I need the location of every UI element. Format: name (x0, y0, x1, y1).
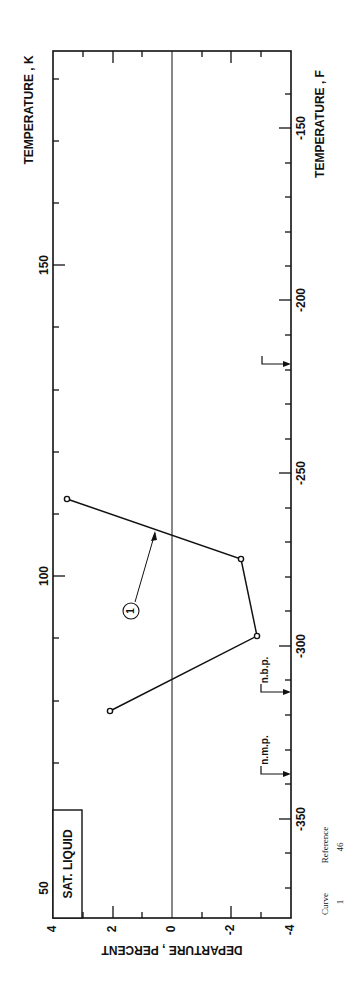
data-point (107, 708, 112, 713)
table-reference-header: Reference (320, 827, 330, 863)
state-label: SAT. LIQUID (61, 829, 75, 898)
k-tick-100: 100 (37, 566, 51, 586)
f-tick-150: -150 (294, 116, 308, 140)
departure-axis-title: DEPARTURE , PERCENT (101, 943, 243, 957)
f-tick-200: -200 (294, 288, 308, 312)
data-point (238, 556, 243, 561)
f-tick-350: -350 (294, 807, 308, 831)
curve-1-points (64, 496, 259, 713)
dep-tick-0: 0 (164, 925, 178, 932)
f-axis-title: TEMPERATURE , F (313, 70, 327, 178)
curve-label-arrow (135, 533, 155, 602)
k-tick-150: 150 (37, 255, 51, 275)
dep-tick-neg4: -4 (283, 924, 297, 935)
nbp-label: n.b.p. (259, 656, 270, 683)
data-point (64, 496, 69, 501)
f-axis-ticks (279, 94, 291, 888)
nmp-label: n.m.p. (259, 735, 270, 765)
f-tick-250: -250 (294, 461, 308, 485)
arrowhead-icon (151, 531, 157, 541)
k-tick-50: 50 (37, 881, 51, 895)
dep-tick-neg2: -2 (223, 924, 237, 935)
k-axis-title: TEMPERATURE , K (22, 55, 36, 164)
f-tick-300: -300 (294, 634, 308, 658)
data-point (254, 633, 259, 638)
curve-label: 1 (125, 608, 136, 614)
chart: 1 n.b.p. n.m.p. SAT. LIQUID 50 100 150 T… (0, 0, 357, 1000)
dep-tick-4: 4 (45, 925, 59, 932)
table-curve-value: 1 (335, 900, 345, 905)
transition-markers (261, 356, 287, 774)
table-curve-header: Curve (320, 893, 330, 915)
dep-tick-2: 2 (105, 925, 119, 932)
k-axis-ticks (53, 79, 65, 888)
table-reference-value: 46 (335, 842, 345, 852)
curve-1-line (67, 499, 257, 711)
